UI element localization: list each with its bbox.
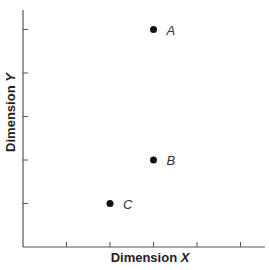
data-point: C — [107, 197, 134, 212]
y-axis-label: Dimension Y — [3, 53, 18, 173]
point-label: A — [166, 23, 176, 38]
data-point: B — [150, 153, 176, 168]
point-marker — [150, 26, 157, 33]
axes — [23, 10, 265, 247]
data-point: A — [150, 23, 175, 38]
point-label: B — [167, 153, 176, 168]
point-marker — [150, 157, 157, 164]
point-label: C — [123, 197, 133, 212]
x-axis-label: Dimension X — [90, 250, 210, 265]
scatter-plot: ABC — [0, 0, 269, 270]
data-points: ABC — [107, 23, 176, 212]
point-marker — [107, 200, 114, 207]
